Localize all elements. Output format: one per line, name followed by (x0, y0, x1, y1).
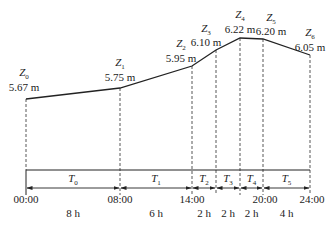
point-name-z6: Z6 (305, 26, 315, 41)
time-label-4: 24:00 (299, 193, 325, 205)
point-labels: Z05.67 mZ15.75 mZ25.95 mZ36.10 mZ46.22 m… (9, 8, 326, 93)
period-label-t5: T5 (282, 172, 292, 187)
period-duration-t5: 4 h (280, 207, 294, 219)
point-value-z1: 5.75 m (105, 71, 136, 83)
period-label-t1: T1 (151, 172, 161, 187)
period-label-t2: T2 (199, 172, 209, 187)
period-duration-t0: 8 h (66, 207, 80, 219)
point-name-z2: Z2 (176, 37, 186, 52)
point-value-z6: 6.05 m (295, 41, 326, 53)
period-label-t3: T3 (223, 172, 233, 187)
period-label-t0: T0 (68, 172, 78, 187)
point-name-z5: Z5 (266, 11, 276, 26)
time-label-3: 20:00 (252, 193, 278, 205)
time-label-0: 00:00 (13, 193, 39, 205)
point-name-z3: Z3 (201, 22, 211, 37)
period-label-t4: T4 (247, 172, 257, 187)
water-level-profile-line (26, 38, 310, 99)
time-label-2: 14:00 (179, 193, 205, 205)
water-level-diagram: Z05.67 mZ15.75 mZ25.95 mZ36.10 mZ46.22 m… (0, 0, 331, 228)
point-name-z0: Z0 (19, 66, 29, 81)
point-name-z4: Z4 (235, 8, 245, 23)
point-value-z4: 6.22 m (225, 23, 256, 35)
time-label-1: 08:00 (107, 193, 133, 205)
point-value-z5: 6.20 m (256, 25, 287, 37)
point-name-z1: Z1 (115, 56, 125, 71)
point-value-z2: 5.95 m (166, 52, 197, 64)
period-duration-t2: 2 h (197, 207, 211, 219)
period-duration-t4: 2 h (245, 207, 259, 219)
point-value-z3: 6.10 m (191, 36, 222, 48)
point-value-z0: 5.67 m (9, 81, 40, 93)
period-duration-t1: 6 h (149, 207, 163, 219)
time-labels: 00:0008:0014:0020:0024:00 (13, 193, 325, 205)
period-duration-t3: 2 h (221, 207, 235, 219)
